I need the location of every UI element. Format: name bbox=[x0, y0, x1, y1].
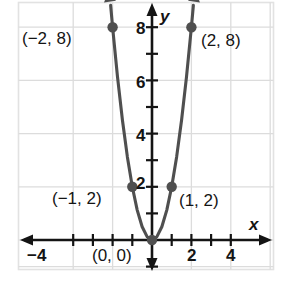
y-tick-label-6: 6 bbox=[136, 74, 145, 91]
point-label-2-8: (2, 8) bbox=[201, 32, 241, 49]
x-tick-label-neg4: −4 bbox=[27, 247, 46, 264]
y-tick-label-2: 2 bbox=[136, 175, 145, 192]
y-tick-label-8: 8 bbox=[136, 20, 145, 37]
y-tick-label-4: 4 bbox=[136, 127, 145, 144]
y-axis-label: y bbox=[160, 8, 169, 25]
data-point bbox=[186, 22, 196, 32]
x-axis-label: x bbox=[249, 216, 258, 233]
x-tick-label-4: 4 bbox=[226, 247, 235, 264]
point-label-1-2: (1, 2) bbox=[179, 192, 219, 209]
point-label-0-0: (0, 0) bbox=[92, 247, 132, 264]
parabola-graph-figure: 8 6 4 2 −4 2 4 y x (−2, 8) (2, 8) (−1, 2… bbox=[0, 0, 295, 283]
data-point bbox=[167, 182, 177, 192]
point-label-neg1-2: (−1, 2) bbox=[52, 190, 102, 207]
point-label-neg2-8: (−2, 8) bbox=[22, 30, 72, 47]
x-tick-label-2: 2 bbox=[187, 247, 196, 264]
data-point bbox=[107, 22, 117, 32]
data-point bbox=[147, 235, 157, 245]
